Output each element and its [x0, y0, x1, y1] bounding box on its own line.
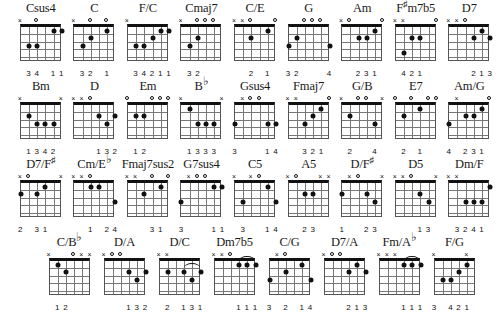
string-line — [206, 27, 207, 60]
fret-grid — [448, 102, 489, 139]
finger-dot — [418, 192, 423, 197]
fret-line — [270, 268, 309, 269]
finger-number: 3 — [210, 146, 218, 158]
open-string-icon — [272, 17, 279, 24]
chord-diagram: G7sus4311 — [175, 158, 229, 236]
finger-dot — [440, 277, 445, 282]
finger-number: 1 — [218, 224, 226, 236]
finger-number: 1 — [338, 224, 346, 236]
finger-number: 1 — [94, 146, 102, 158]
string-line — [206, 183, 207, 216]
fretboard — [49, 258, 91, 302]
open-string-icon — [300, 17, 307, 24]
chord-name: Fmaj7 — [293, 80, 324, 95]
fret-line — [74, 57, 113, 58]
finger-number: 1 — [57, 68, 65, 80]
string-line — [457, 27, 458, 60]
fret-line — [235, 190, 274, 191]
string-line — [29, 105, 30, 138]
string-line — [54, 183, 55, 216]
chord-row: Csus43411C321F/C34211Cmaj732C/E21G324Am2… — [0, 2, 496, 80]
string-line — [99, 105, 100, 138]
open-string-icon — [202, 173, 209, 180]
chord-name: D7 — [462, 2, 477, 17]
chord-diagram: Dm/F3241 — [443, 158, 496, 236]
finger-number: 1 — [164, 68, 172, 80]
finger-number: 1 — [416, 302, 424, 314]
string-line — [243, 27, 244, 60]
finger-number: 1 — [478, 224, 486, 236]
chord-row: Bm1342D132Em12B♭1333Gsus4314Fmaj7321G/B2… — [0, 80, 496, 158]
chord-diagram: F/G3421 — [427, 236, 482, 314]
finger-dot — [308, 277, 313, 282]
string-line — [153, 183, 154, 216]
fretboard — [20, 180, 62, 224]
fretboard — [73, 24, 115, 68]
finger-dot — [471, 36, 476, 41]
fret-line — [396, 127, 435, 128]
string-markers — [341, 95, 383, 102]
fret-line — [74, 127, 113, 128]
fret-line — [449, 213, 488, 214]
finger-number: 1 — [251, 302, 259, 314]
fret-grid — [395, 102, 436, 139]
open-string-icon — [346, 17, 353, 24]
fret-grid — [269, 258, 310, 295]
fret-line — [342, 205, 381, 206]
string-line — [260, 27, 261, 60]
chord-name: C/B♭ — [57, 236, 82, 251]
string-line — [278, 261, 279, 294]
finger-number: 3 — [78, 68, 86, 80]
chord-diagram: Fmaj7321 — [282, 80, 336, 158]
string-markers — [288, 17, 330, 24]
fretboard — [395, 24, 437, 68]
fretboard — [214, 258, 256, 302]
fret-grid — [288, 180, 329, 217]
string-markers — [288, 95, 330, 102]
string-markers — [127, 173, 169, 180]
fret-line — [50, 291, 89, 292]
finger-dot — [43, 184, 48, 189]
fret-line — [380, 268, 419, 269]
fret-line — [380, 276, 419, 277]
chord-name: Fm/A♭ — [382, 236, 416, 251]
string-line — [359, 105, 360, 138]
string-markers — [395, 95, 437, 102]
chord-diagram: B♭1333 — [175, 80, 229, 158]
string-markers — [448, 173, 490, 180]
string-line — [457, 183, 458, 216]
open-string-icon — [408, 95, 415, 102]
fret-line — [50, 268, 89, 269]
finger-dot — [274, 121, 279, 126]
finger-numbers: 24 — [339, 146, 385, 158]
finger-dot — [134, 43, 139, 48]
fret-grid — [180, 102, 221, 139]
string-line — [91, 105, 92, 138]
finger-number: 4 — [469, 224, 477, 236]
fretboard — [127, 180, 169, 224]
finger-dot — [311, 114, 316, 119]
chord-diagram: Fm/A♭111 — [372, 236, 427, 314]
finger-dot — [165, 270, 170, 275]
finger-number: 1 — [235, 302, 243, 314]
open-string-icon — [292, 173, 299, 180]
fret-line — [449, 112, 488, 113]
finger-number: 3 — [185, 68, 193, 80]
finger-number: 3 — [239, 224, 247, 236]
finger-number: 3 — [148, 224, 156, 236]
string-line — [198, 183, 199, 216]
finger-dot — [311, 192, 316, 197]
finger-dot — [198, 270, 203, 275]
string-markers — [20, 17, 62, 24]
finger-dot — [294, 36, 299, 41]
chord-name: D5 — [408, 158, 423, 173]
string-line — [313, 27, 314, 60]
finger-number: 2 — [309, 146, 317, 158]
chord-name: Am/G — [454, 80, 484, 95]
fretboard — [448, 102, 490, 146]
chord-diagram: D513 — [389, 158, 443, 236]
finger-number: 3 — [231, 146, 239, 158]
finger-number: 4 — [370, 146, 378, 158]
fretboard — [73, 180, 115, 224]
finger-numbers: 123 — [339, 224, 385, 236]
